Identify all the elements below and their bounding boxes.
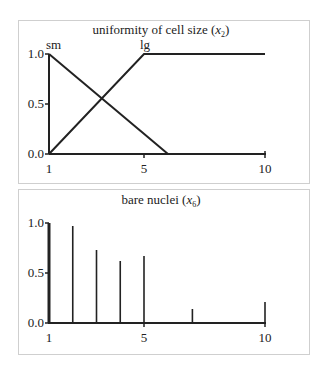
bars	[49, 223, 265, 323]
y-tick-label: 1.0	[28, 46, 44, 61]
x-tick-label: 5	[141, 161, 148, 176]
label-lg: lg	[140, 37, 151, 52]
x-tick-label: 1	[46, 330, 53, 345]
y-tick-label: 0.5	[28, 265, 44, 280]
chart-title: bare nuclei (x6)	[121, 192, 200, 209]
y-tick-label: 0.5	[28, 96, 44, 111]
chart-title: uniformity of cell size (x2)	[93, 22, 230, 39]
chart-panel-bare-nuclei: bare nuclei (x6) 1.0 0.5 0.0 1 5 10	[18, 189, 310, 355]
series-lg-line	[49, 54, 265, 154]
chart-bare-nuclei-svg: bare nuclei (x6) 1.0 0.5 0.0 1 5 10	[1, 190, 324, 356]
chart-panel-uniformity: uniformity of cell size (x2) 1.0 0.5 0.0…	[18, 20, 310, 184]
x-tick-label: 10	[259, 161, 272, 176]
y-tick-label: 0.0	[28, 315, 44, 330]
x-tick-label: 10	[259, 330, 272, 345]
x-tick-label: 5	[141, 330, 148, 345]
series-sm-line	[49, 54, 168, 154]
y-tick-label: 1.0	[28, 215, 44, 230]
label-sm: sm	[46, 37, 61, 52]
x-tick-label: 1	[46, 161, 53, 176]
y-tick-label: 0.0	[28, 146, 44, 161]
chart-uniformity-svg: uniformity of cell size (x2) 1.0 0.5 0.0…	[1, 21, 324, 185]
